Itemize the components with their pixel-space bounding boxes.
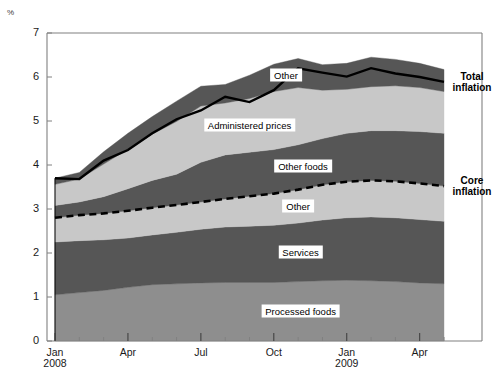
x-tick-label-4: Jan 2009 xyxy=(317,347,377,369)
x-tick-label-1: Apr xyxy=(98,347,158,358)
inflation-decomposition-chart: % 01234567 Jan 2008AprJulOctJan 2009Apr … xyxy=(0,0,497,392)
series-label-services: Services xyxy=(278,246,322,259)
y-tick-label-5: 5 xyxy=(23,114,39,126)
x-tick-label-3: Oct xyxy=(244,347,304,358)
y-tick-label-1: 1 xyxy=(23,290,39,302)
series-label-other: Other xyxy=(270,69,302,82)
x-tick-label-2: Jul xyxy=(171,347,231,358)
series-label-other: Other xyxy=(282,200,314,213)
y-tick-label-2: 2 xyxy=(23,246,39,258)
chart-canvas xyxy=(0,0,497,392)
y-tick-label-3: 3 xyxy=(23,202,39,214)
y-tick-label-6: 6 xyxy=(23,70,39,82)
x-tick-label-5: Apr xyxy=(390,347,450,358)
y-tick-label-7: 7 xyxy=(23,26,39,38)
y-tick-label-0: 0 xyxy=(23,334,39,346)
series-label-administered-prices: Administered prices xyxy=(204,119,295,132)
area-band-0 xyxy=(55,280,444,341)
series-label-other-foods: Other foods xyxy=(274,160,332,173)
x-tick-label-0: Jan 2008 xyxy=(25,347,85,369)
y-tick-label-4: 4 xyxy=(23,158,39,170)
series-label-processed-foods: Processed foods xyxy=(261,305,340,318)
edge-label-total-inflation: Total inflation xyxy=(450,71,494,93)
edge-label-core-inflation: Core inflation xyxy=(450,175,494,197)
